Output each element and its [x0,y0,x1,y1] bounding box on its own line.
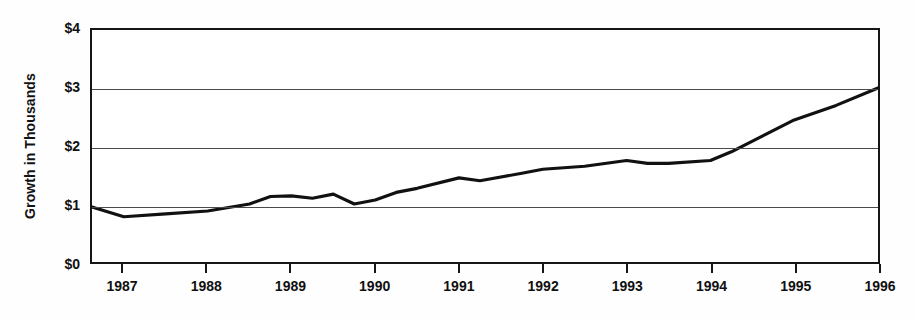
growth-line-chart: Growth in Thousands $0$1$2$3$4 198719881… [0,0,914,322]
y-tick-label: $1 [44,198,80,212]
growth-line-path [92,88,878,217]
y-tick-label: $0 [44,257,80,271]
data-series-line [92,30,878,262]
y-tick-label: $4 [44,21,80,35]
x-tick-label: 1995 [780,278,811,294]
x-tick-label: 1991 [443,278,474,294]
y-axis-tick-labels: $0$1$2$3$4 [44,0,80,322]
x-tick-label: 1992 [528,278,559,294]
x-axis-tick-labels: 1987198819891990199119921993199419951996 [90,264,880,314]
gridline [92,89,878,90]
x-tick-label: 1993 [612,278,643,294]
x-tick-label: 1996 [864,278,895,294]
y-axis-title: Growth in Thousands [18,28,42,264]
x-tick-label: 1994 [696,278,727,294]
gridline [92,207,878,208]
y-axis-title-text: Growth in Thousands [22,73,38,219]
plot-area [90,28,880,264]
x-tick-label: 1987 [106,278,137,294]
y-tick-label: $3 [44,80,80,94]
x-tick-label: 1990 [359,278,390,294]
gridline [92,148,878,149]
y-tick-label: $2 [44,139,80,153]
x-tick-label: 1988 [191,278,222,294]
x-tick-label: 1989 [275,278,306,294]
